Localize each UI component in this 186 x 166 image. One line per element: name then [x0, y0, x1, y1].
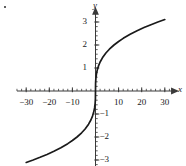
y-tick-label: 1: [83, 63, 88, 72]
x-tick-label: −10: [65, 98, 79, 107]
y-tick-label: −2: [100, 132, 110, 141]
axes-group: [17, 7, 179, 166]
x-tick-label: 30: [160, 98, 169, 107]
y-tick-label: −3: [100, 155, 110, 164]
y-axis-label: y: [93, 1, 97, 10]
graph-figure: y x −30−20−10102030 321−1−2−3: [0, 0, 186, 166]
cube-root-plot: [0, 0, 186, 166]
y-tick-label: −1: [100, 109, 110, 118]
x-tick-label: 10: [114, 98, 123, 107]
x-axis-label: x: [178, 85, 182, 94]
x-tick-label: 20: [137, 98, 146, 107]
tick-marks-group: [17, 17, 169, 166]
y-tick-label: 3: [83, 17, 88, 26]
y-tick-label: 2: [83, 40, 88, 49]
x-tick-label: −30: [19, 98, 33, 107]
x-tick-label: −20: [42, 98, 56, 107]
